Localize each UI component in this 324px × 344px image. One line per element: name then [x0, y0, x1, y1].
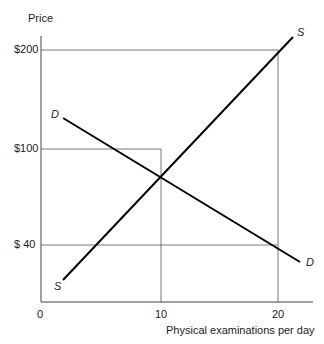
supply-curve	[63, 37, 293, 280]
x-tick-10: 10	[155, 308, 167, 320]
demand-curve	[63, 118, 300, 262]
x-tick-20: 20	[272, 308, 284, 320]
y-tick-40: $ 40	[14, 238, 35, 250]
y-tick-200: $200	[14, 43, 38, 55]
y-axis-label: Price	[28, 12, 53, 24]
demand-label-bottom: D	[306, 256, 314, 268]
demand-label-top: D	[51, 108, 59, 120]
supply-demand-chart	[0, 0, 324, 344]
supply-label-top: S	[297, 26, 304, 38]
x-axis-label: Physical examinations per day	[166, 324, 315, 336]
supply-label-bottom: S	[54, 280, 61, 292]
y-tick-100: $100	[14, 142, 38, 154]
x-tick-0: 0	[37, 308, 43, 320]
